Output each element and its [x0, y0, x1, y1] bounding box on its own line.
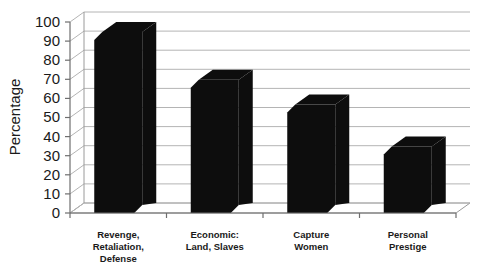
bar-front-face: [94, 32, 142, 213]
bar-front-face: [384, 147, 432, 213]
bar-side-face: [142, 22, 156, 205]
category-label-line: Defense: [100, 253, 137, 264]
bar: [384, 137, 446, 213]
bar-front-face: [287, 105, 335, 213]
y-tick-label: 10: [43, 185, 60, 202]
bar: [94, 22, 156, 213]
category-label-line: Revenge,: [97, 229, 139, 240]
bar: [191, 70, 253, 213]
bar-side-face: [335, 95, 349, 205]
chart-canvas: 1009080706050403020100 Percentage Reveng…: [0, 0, 484, 278]
y-tick-label: 40: [43, 128, 60, 145]
y-tick-label: 30: [43, 147, 60, 164]
category-label-line: Capture: [293, 229, 329, 240]
bar-side-face: [432, 137, 446, 205]
bar-front-face: [191, 80, 239, 213]
category-label-line: Women: [294, 241, 328, 252]
y-tick-label: 20: [43, 166, 60, 183]
bar-side-face: [239, 70, 253, 205]
y-tick-label: 70: [43, 70, 60, 87]
y-tick-label: 100: [35, 13, 60, 30]
y-tick-label: 0: [52, 204, 60, 221]
category-label-line: Land, Slaves: [186, 241, 244, 252]
bar-chart: 1009080706050403020100 Percentage Reveng…: [0, 0, 484, 278]
y-tick-label: 60: [43, 89, 60, 106]
bar: [287, 95, 349, 213]
category-label-line: Personal: [388, 229, 428, 240]
y-axis-title: Percentage: [6, 79, 23, 156]
y-tick-label: 90: [43, 32, 60, 49]
category-label-line: Prestige: [389, 241, 427, 252]
y-tick-label: 50: [43, 108, 60, 125]
category-label-line: Retaliation,: [93, 241, 144, 252]
y-tick-label: 80: [43, 51, 60, 68]
category-label-line: Economic:: [190, 229, 239, 240]
